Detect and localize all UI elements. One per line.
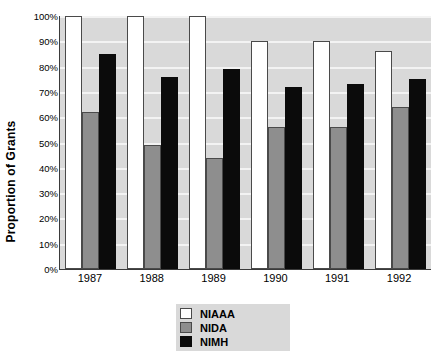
y-tick-label: 0% [22,264,58,275]
x-tick-label: 1991 [309,272,365,284]
y-tick-label: 60% [22,112,58,123]
bar-niaaa-1987[interactable] [65,16,82,269]
bar-niaaa-1991[interactable] [313,41,330,269]
plot-area [59,16,431,270]
bar-group [65,16,116,269]
y-axis-title: Proportion of Grants [0,0,22,363]
bar-group [189,16,240,269]
bar-chart-figure: Proportion of Grants 100%90%80%70%60%50%… [0,0,441,363]
y-tick-label: 80% [22,61,58,72]
y-tick-label: 20% [22,213,58,224]
bar-nida-1991[interactable] [330,127,347,269]
legend-label-niaaa: NIAAA [200,308,235,320]
y-axis-tick-labels: 100%90%80%70%60%50%40%30%20%10%0% [22,16,58,269]
legend-item-nida[interactable]: NIDA [180,321,286,334]
legend-swatch-nida [180,322,192,333]
y-tick-label: 100% [22,11,58,22]
bar-groups [60,16,431,269]
x-tick-label: 1989 [186,272,242,284]
x-tick-label: 1987 [62,272,118,284]
y-tick-label: 10% [22,238,58,249]
bar-group [127,16,178,269]
bar-nimh-1989[interactable] [223,69,240,269]
bar-nimh-1987[interactable] [99,54,116,269]
legend-label-nida: NIDA [200,322,227,334]
bar-nida-1989[interactable] [206,158,223,269]
x-tick-label: 1988 [124,272,180,284]
x-tick-label: 1990 [247,272,303,284]
y-tick-label: 70% [22,86,58,97]
bar-niaaa-1989[interactable] [189,16,206,269]
bar-nida-1988[interactable] [144,145,161,269]
x-axis-tick-labels: 198719881989199019911992 [59,272,430,290]
x-tick-label: 1992 [371,272,427,284]
legend-item-niaaa[interactable]: NIAAA [180,307,286,320]
legend-item-nimh[interactable]: NIMH [180,335,286,348]
legend-swatch-nimh [180,336,192,347]
bar-group [313,16,364,269]
bar-niaaa-1990[interactable] [251,41,268,269]
bar-nimh-1992[interactable] [409,79,426,269]
legend-swatch-niaaa [180,308,192,319]
bar-nida-1992[interactable] [392,107,409,269]
y-tick-label: 40% [22,162,58,173]
bar-niaaa-1988[interactable] [127,16,144,269]
bar-nimh-1991[interactable] [347,84,364,269]
bar-nimh-1988[interactable] [161,77,178,269]
bar-group [251,16,302,269]
y-tick-label: 30% [22,188,58,199]
legend-label-nimh: NIMH [200,336,228,348]
bar-nimh-1990[interactable] [285,87,302,269]
y-tick-label: 50% [22,137,58,148]
chart-legend: NIAAANIDANIMH [176,304,290,351]
bar-nida-1990[interactable] [268,127,285,269]
bar-nida-1987[interactable] [82,112,99,269]
y-tick-label: 90% [22,36,58,47]
bar-group [375,16,426,269]
bar-niaaa-1992[interactable] [375,51,392,269]
